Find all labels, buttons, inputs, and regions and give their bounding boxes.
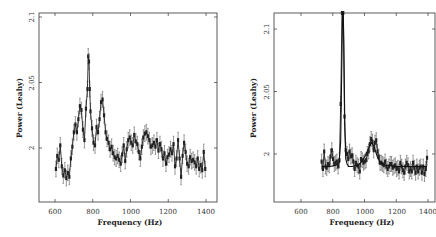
right-data-series bbox=[321, 11, 429, 182]
left-xtick-label: 1000 bbox=[122, 208, 140, 216]
left-y-axis-label: Power (Leahy) bbox=[15, 78, 24, 138]
right-plot: 600 800 1000 1200 1400 Frequency (Hz) 2 … bbox=[249, 11, 436, 227]
right-x-axis-label: Frequency (Hz) bbox=[330, 218, 395, 227]
left-ytick-label: 2.05 bbox=[28, 75, 36, 91]
right-xtick-label: 800 bbox=[326, 208, 339, 216]
left-plot: 600 800 1000 1200 1400 Frequency (Hz) 2 … bbox=[15, 11, 217, 227]
left-ytick-label: 2.1 bbox=[28, 11, 36, 22]
right-ytick-label: 2.05 bbox=[263, 84, 271, 100]
left-xtick-label: 800 bbox=[86, 208, 99, 216]
right-xtick-label: 1200 bbox=[388, 208, 406, 216]
right-ytick-label: 2.1 bbox=[263, 23, 271, 34]
right-ytick-label: 2 bbox=[263, 152, 271, 156]
right-xtick-label: 1000 bbox=[356, 208, 374, 216]
left-data-series bbox=[55, 48, 207, 186]
right-y-axis-label: Power (Leahy) bbox=[249, 78, 258, 138]
figure: 600 800 1000 1200 1400 Frequency (Hz) 2 … bbox=[0, 0, 436, 237]
left-xtick-label: 1200 bbox=[159, 208, 177, 216]
left-xtick-label: 600 bbox=[48, 208, 61, 216]
right-xtick-label: 1400 bbox=[419, 208, 436, 216]
right-xtick-label: 600 bbox=[294, 208, 307, 216]
left-xtick-label: 1400 bbox=[197, 208, 215, 216]
left-ytick-label: 2 bbox=[28, 146, 36, 150]
left-x-axis-label: Frequency (Hz) bbox=[98, 218, 163, 227]
